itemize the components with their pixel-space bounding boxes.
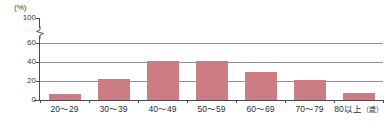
bar-slot	[89, 18, 138, 100]
bar	[343, 93, 375, 100]
x-axis-label: 80以上（歳）	[325, 104, 387, 115]
x-tick-mark	[187, 100, 188, 103]
bar-slot	[236, 18, 285, 100]
bar-slot	[187, 18, 236, 100]
y-tick-label-0: 0	[12, 96, 36, 104]
bar-chart: (%) 100 60 40 20 0 20〜2930〜3940〜4950〜596…	[0, 0, 387, 123]
x-axis-label: 20〜29	[40, 104, 89, 115]
bar	[98, 79, 130, 100]
x-tick-mark	[334, 100, 335, 103]
x-axis-unit-suffix: （歳）	[362, 106, 383, 113]
bar	[147, 61, 179, 100]
x-tick-mark	[89, 100, 90, 103]
x-axis: 20〜2930〜3940〜4950〜5960〜6970〜7980以上（歳）	[40, 100, 383, 123]
y-tick-label-40: 40	[12, 58, 36, 66]
y-tick-label-100: 100	[12, 14, 36, 22]
x-tick-mark	[236, 100, 237, 103]
x-tick-mark	[138, 100, 139, 103]
y-axis-tick-labels: 100 60 40 20 0	[8, 0, 36, 123]
bar	[196, 61, 228, 100]
x-tick-mark	[285, 100, 286, 103]
bar-slot	[334, 18, 383, 100]
bar-slot	[40, 18, 89, 100]
x-tick-mark	[383, 100, 384, 103]
x-axis-label: 30〜39	[89, 104, 138, 115]
bar-slot	[285, 18, 334, 100]
bars-layer	[40, 18, 383, 100]
y-tick-label-20: 20	[12, 77, 36, 85]
x-axis-label: 40〜49	[138, 104, 187, 115]
x-tick-mark	[40, 100, 41, 103]
x-axis-label: 50〜59	[187, 104, 236, 115]
bar	[245, 72, 277, 101]
y-tick-label-60: 60	[12, 39, 36, 47]
bar-slot	[138, 18, 187, 100]
bar	[294, 80, 326, 100]
x-axis-label: 60〜69	[236, 104, 285, 115]
